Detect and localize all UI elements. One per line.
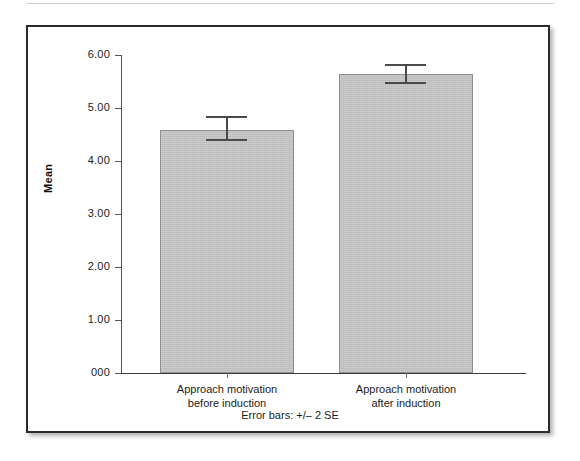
error-bar-cap-lower-after-induction (385, 82, 426, 84)
error-bar-cap-upper-after-induction (385, 64, 426, 66)
y-tick-label-3: 3.00 (88, 207, 110, 219)
x-category-label-after-induction: Approach motivation after induction (321, 382, 491, 410)
y-tick-label-4: 4.00 (88, 154, 110, 166)
y-axis-title: Mean (42, 164, 54, 193)
figure-page: 6.00 5.00 4.00 3.00 2.00 1.00 (0, 0, 580, 461)
error-bar-stem-after-induction (405, 64, 407, 83)
x-tick-after-induction (406, 373, 407, 378)
y-tick-2: 2.00 (115, 267, 121, 268)
error-bar-stem-before-induction (226, 116, 228, 140)
chart-figure-frame: 6.00 5.00 4.00 3.00 2.00 1.00 (26, 25, 550, 433)
y-tick-label-1: 1.00 (88, 313, 110, 325)
y-tick-3: 3.00 (115, 214, 121, 215)
y-tick-label-5: 5.00 (88, 101, 110, 113)
error-bars-note: Error bars: +/– 2 SE (28, 409, 552, 421)
page-top-rule (26, 3, 554, 4)
y-tick-label-2: 2.00 (88, 260, 110, 272)
bar-approach-motivation-after-induction[interactable] (339, 74, 473, 373)
x-tick-before-induction (227, 373, 228, 378)
bar-approach-motivation-before-induction[interactable] (160, 130, 294, 373)
y-tick-5: 5.00 (115, 108, 121, 109)
y-tick-6: 6.00 (115, 55, 121, 56)
chart-plot-area: 6.00 5.00 4.00 3.00 2.00 1.00 (28, 27, 552, 435)
error-bar-cap-upper-before-induction (206, 116, 247, 118)
x-axis-line (121, 373, 526, 374)
y-tick-label-6: 6.00 (88, 48, 110, 60)
y-tick-4: 4.00 (115, 161, 121, 162)
y-axis-line (121, 55, 122, 374)
error-bar-cap-lower-before-induction (206, 139, 247, 141)
y-tick-label-0: 000 (91, 366, 110, 378)
y-tick-1: 1.00 (115, 320, 121, 321)
x-category-label-before-induction: Approach motivation before induction (142, 382, 312, 410)
